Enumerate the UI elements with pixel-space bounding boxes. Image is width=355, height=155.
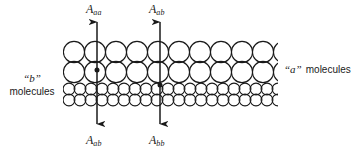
arrow-right-anchor-dot	[158, 83, 163, 88]
label-arrow-left-bottom: Aab	[86, 134, 102, 148]
label-arrow-right-top: Aab	[149, 3, 165, 17]
small-molecule-row-third	[63, 83, 284, 95]
label-right-phase: “a”molecules	[284, 60, 351, 76]
arrow-left-anchor-dot	[95, 68, 100, 73]
molecule-lattice	[63, 41, 295, 106]
label-right-phase-word: molecules	[306, 64, 351, 75]
molecular-interface-figure: Aaa Aab Aab Abb “b” molecules “a”molecul…	[0, 0, 355, 155]
label-arrow-left-bottom-subscript: ab	[93, 139, 101, 148]
label-right-phase-symbol: “a”	[284, 63, 302, 75]
label-arrow-left-top-subscript: aa	[93, 8, 101, 17]
label-left-phase-symbol: “b”	[0, 73, 64, 84]
label-arrow-right-bottom-subscript: bb	[156, 139, 164, 148]
label-arrow-left-top: Aaa	[86, 3, 102, 17]
small-molecule-row-bottom	[63, 94, 284, 106]
large-molecule-row-top	[63, 41, 294, 62]
label-arrow-right-bottom: Abb	[149, 134, 165, 148]
arrow-left-aa-ab	[95, 22, 100, 124]
arrow-right-ab-bb	[158, 22, 163, 124]
label-arrow-right-top-subscript: ab	[156, 8, 164, 17]
force-arrows	[95, 22, 163, 124]
label-left-phase: “b” molecules	[0, 73, 64, 97]
label-left-phase-word: molecules	[0, 87, 64, 97]
